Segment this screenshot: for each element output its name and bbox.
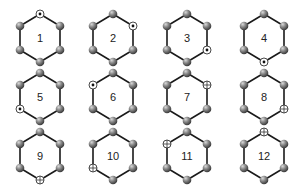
hexagon-label: 5 bbox=[37, 91, 43, 103]
atom-icon bbox=[129, 81, 138, 90]
atom-icon bbox=[203, 105, 212, 114]
atom-icon bbox=[280, 164, 289, 173]
hexagon-label: 4 bbox=[261, 32, 267, 44]
atom-icon bbox=[56, 140, 65, 149]
atom-icon bbox=[183, 128, 192, 137]
hexagon-10: 10 bbox=[89, 128, 138, 185]
hexagon-11: 11 bbox=[163, 128, 212, 185]
dot-marker-icon bbox=[260, 58, 268, 66]
atom-icon bbox=[183, 176, 192, 185]
atom-icon bbox=[240, 22, 249, 31]
atom-icon bbox=[203, 22, 212, 31]
dot-marker-icon bbox=[129, 22, 137, 30]
atom-icon bbox=[163, 22, 172, 31]
atom-icon bbox=[240, 140, 249, 149]
atom-icon bbox=[16, 164, 25, 173]
cross-marker-icon bbox=[260, 128, 268, 136]
hexagon-label: 6 bbox=[110, 91, 116, 103]
hexagon-label: 12 bbox=[258, 150, 270, 162]
atom-icon bbox=[129, 105, 138, 114]
atom-icon bbox=[109, 58, 118, 67]
hexagon-label: 3 bbox=[184, 32, 190, 44]
atom-icon bbox=[56, 46, 65, 55]
atom-icon bbox=[109, 176, 118, 185]
atom-icon bbox=[129, 164, 138, 173]
atom-icon bbox=[203, 164, 212, 173]
hexagon-9: 9 bbox=[16, 128, 65, 184]
atom-icon bbox=[280, 140, 289, 149]
atom-icon bbox=[260, 69, 269, 78]
atom-icon bbox=[89, 46, 98, 55]
hexagon-label: 1 bbox=[37, 32, 43, 44]
atom-icon bbox=[240, 46, 249, 55]
atom-icon bbox=[183, 69, 192, 78]
atom-icon bbox=[183, 58, 192, 67]
dot-marker-icon bbox=[89, 81, 97, 89]
atom-icon bbox=[109, 117, 118, 126]
atom-icon bbox=[36, 58, 45, 67]
cross-marker-icon bbox=[89, 164, 97, 172]
atom-icon bbox=[240, 81, 249, 90]
atom-icon bbox=[56, 22, 65, 31]
atom-icon bbox=[280, 81, 289, 90]
hexagon-6: 6 bbox=[89, 69, 138, 126]
atom-icon bbox=[240, 105, 249, 114]
atom-icon bbox=[36, 69, 45, 78]
atom-icon bbox=[163, 164, 172, 173]
atom-icon bbox=[280, 22, 289, 31]
hexagon-4: 4 bbox=[240, 10, 289, 66]
atom-icon bbox=[260, 176, 269, 185]
hexagon-label: 10 bbox=[107, 150, 119, 162]
atom-icon bbox=[129, 140, 138, 149]
atom-icon bbox=[16, 140, 25, 149]
dot-marker-icon bbox=[16, 105, 24, 113]
atom-icon bbox=[16, 22, 25, 31]
cross-marker-icon bbox=[36, 176, 44, 184]
cross-marker-icon bbox=[163, 140, 171, 148]
hexagon-12: 12 bbox=[240, 128, 289, 184]
atom-icon bbox=[240, 164, 249, 173]
cross-marker-icon bbox=[280, 105, 288, 113]
hexagon-label: 8 bbox=[261, 91, 267, 103]
hexagon-diagram: 123456789101112 bbox=[0, 0, 302, 195]
atom-icon bbox=[163, 105, 172, 114]
atom-icon bbox=[89, 22, 98, 31]
hexagon-label: 7 bbox=[184, 91, 190, 103]
hexagon-grid: 123456789101112 bbox=[16, 10, 289, 185]
cross-marker-icon bbox=[203, 81, 211, 89]
atom-icon bbox=[109, 128, 118, 137]
atom-icon bbox=[89, 105, 98, 114]
atom-icon bbox=[109, 69, 118, 78]
hexagon-label: 2 bbox=[110, 32, 116, 44]
atom-icon bbox=[183, 10, 192, 19]
hexagon-8: 8 bbox=[240, 69, 289, 126]
hexagon-label: 9 bbox=[37, 150, 43, 162]
hexagon-5: 5 bbox=[16, 69, 65, 126]
atom-icon bbox=[260, 117, 269, 126]
atom-icon bbox=[260, 10, 269, 19]
atom-icon bbox=[163, 46, 172, 55]
atom-icon bbox=[56, 81, 65, 90]
atom-icon bbox=[129, 46, 138, 55]
atom-icon bbox=[163, 81, 172, 90]
dot-marker-icon bbox=[203, 46, 211, 54]
hexagon-2: 2 bbox=[89, 10, 138, 67]
atom-icon bbox=[89, 140, 98, 149]
atom-icon bbox=[16, 46, 25, 55]
atom-icon bbox=[56, 164, 65, 173]
atom-icon bbox=[203, 140, 212, 149]
atom-icon bbox=[36, 117, 45, 126]
atom-icon bbox=[280, 46, 289, 55]
atom-icon bbox=[183, 117, 192, 126]
atom-icon bbox=[109, 10, 118, 19]
hexagon-label: 11 bbox=[181, 150, 192, 162]
hexagon-1: 1 bbox=[16, 10, 65, 66]
atom-icon bbox=[36, 128, 45, 137]
hexagon-3: 3 bbox=[163, 10, 212, 67]
dot-marker-icon bbox=[36, 10, 44, 18]
hexagon-7: 7 bbox=[163, 69, 212, 126]
atom-icon bbox=[16, 81, 25, 90]
atom-icon bbox=[56, 105, 65, 114]
